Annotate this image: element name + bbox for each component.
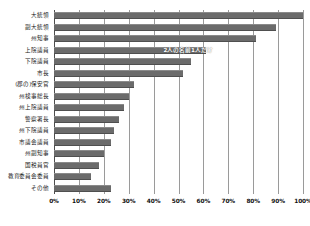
- y-axis-label: 市議会議員: [19, 139, 49, 146]
- x-axis-tick-label: 50%: [172, 198, 186, 204]
- y-axis-label: 州副知事: [25, 150, 49, 157]
- gridline-100%: [303, 10, 304, 194]
- bar-annotation: 2人の名前: [164, 47, 191, 54]
- x-axis-labels: 0%10%20%30%40%50%60%70%80%90%100%: [54, 198, 303, 210]
- chart-title: [0, 0, 310, 3]
- x-axis-tick-label: 70%: [222, 198, 236, 204]
- x-axis-tick-label: 10%: [72, 198, 86, 204]
- y-axis-label: 州知事: [31, 35, 49, 42]
- bar-annotations: 2人の名前1人だけ: [54, 10, 303, 194]
- x-axis-tick-label: 20%: [97, 198, 111, 204]
- x-axis-tick-label: 40%: [147, 198, 161, 204]
- y-axis-label: 国税員官: [25, 162, 49, 169]
- y-axis-label: 大統領: [31, 12, 49, 19]
- y-axis-label: 州下院議員: [19, 127, 49, 134]
- y-axis-label: 州検事総長: [19, 93, 49, 100]
- x-axis-tick-label: 60%: [197, 198, 211, 204]
- plot-area: 2人の名前1人だけ: [54, 10, 303, 194]
- y-axis-label: (郡の)保安官: [15, 81, 49, 88]
- x-axis-tick-label: 90%: [271, 198, 285, 204]
- y-axis-labels: 大統領副大統領州知事上院議員下院議員市長(郡の)保安官州検事総長州上院議員警察署…: [0, 10, 52, 194]
- y-axis-label: 州上院議員: [19, 104, 49, 111]
- y-axis-label: 下院議員: [25, 58, 49, 65]
- y-axis-label: 副大統領: [25, 24, 49, 31]
- y-axis-label: その他: [31, 185, 49, 192]
- y-axis-label: 教育委員会委員: [8, 173, 49, 180]
- x-axis-tick-label: 30%: [122, 198, 136, 204]
- x-axis-tick-label: 80%: [246, 198, 260, 204]
- y-axis-label: 上院議員: [25, 47, 49, 54]
- bar-annotation: 1人だけ: [191, 47, 213, 54]
- y-axis-label: 市長: [37, 70, 49, 77]
- y-axis-label: 警察署長: [25, 116, 49, 123]
- x-axis-tick-label: 100%: [294, 198, 310, 204]
- bar-chart: 大統領副大統領州知事上院議員下院議員市長(郡の)保安官州検事総長州上院議員警察署…: [0, 0, 310, 226]
- x-axis-tick-label: 0%: [49, 198, 59, 204]
